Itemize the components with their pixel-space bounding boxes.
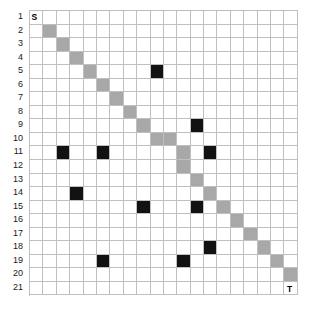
grid-cell-empty[interactable] xyxy=(231,38,244,52)
grid-cell-blocked[interactable] xyxy=(137,201,150,215)
grid-cell-empty[interactable] xyxy=(231,106,244,120)
grid-cell-empty[interactable] xyxy=(84,282,97,296)
grid-cell-empty[interactable] xyxy=(97,38,110,52)
grid-cell-empty[interactable] xyxy=(30,38,43,52)
grid-cell-empty[interactable] xyxy=(151,214,164,228)
grid-cell-empty[interactable] xyxy=(191,187,204,201)
grid-cell-empty[interactable] xyxy=(97,187,110,201)
grid-cell-empty[interactable] xyxy=(164,174,177,188)
grid-cell-empty[interactable] xyxy=(164,268,177,282)
grid-cell-empty[interactable] xyxy=(57,133,70,147)
grid-cell-empty[interactable] xyxy=(124,282,137,296)
grid-cell-empty[interactable] xyxy=(43,187,56,201)
grid-cell-blocked[interactable] xyxy=(177,255,190,269)
grid-cell-empty[interactable] xyxy=(164,25,177,39)
grid-cell-empty[interactable] xyxy=(30,133,43,147)
grid-cell-empty[interactable] xyxy=(30,65,43,79)
grid-cell-empty[interactable] xyxy=(151,201,164,215)
grid-cell-empty[interactable] xyxy=(30,79,43,93)
grid-cell-empty[interactable] xyxy=(258,160,271,174)
grid-cell-empty[interactable] xyxy=(177,133,190,147)
grid-cell-empty[interactable] xyxy=(271,133,284,147)
grid-cell-empty[interactable] xyxy=(271,11,284,25)
grid-cell-empty[interactable] xyxy=(137,11,150,25)
grid-cell-path[interactable] xyxy=(164,133,177,147)
grid-cell-empty[interactable] xyxy=(137,282,150,296)
grid-cell-empty[interactable] xyxy=(70,160,83,174)
grid-cell-empty[interactable] xyxy=(30,268,43,282)
grid-cell-empty[interactable] xyxy=(231,241,244,255)
grid-cell-empty[interactable] xyxy=(84,146,97,160)
grid-cell-empty[interactable] xyxy=(84,201,97,215)
grid-cell-empty[interactable] xyxy=(191,241,204,255)
grid-cell-empty[interactable] xyxy=(244,133,257,147)
grid-cell-blocked[interactable] xyxy=(57,146,70,160)
grid-cell-empty[interactable] xyxy=(137,255,150,269)
grid-cell-empty[interactable] xyxy=(151,38,164,52)
grid-cell-empty[interactable] xyxy=(97,228,110,242)
grid-cell-path[interactable] xyxy=(110,92,123,106)
grid-cell-empty[interactable] xyxy=(271,174,284,188)
grid-cell-empty[interactable] xyxy=(231,119,244,133)
grid-cell-empty[interactable] xyxy=(204,282,217,296)
grid-cell-empty[interactable] xyxy=(271,268,284,282)
grid-cell-blocked[interactable] xyxy=(70,187,83,201)
grid-cell-empty[interactable] xyxy=(217,268,230,282)
grid-cell-empty[interactable] xyxy=(244,174,257,188)
grid-cell-empty[interactable] xyxy=(217,146,230,160)
grid-cell-path[interactable] xyxy=(43,25,56,39)
grid-cell-empty[interactable] xyxy=(258,255,271,269)
grid-cell-empty[interactable] xyxy=(284,38,297,52)
grid-cell-blocked[interactable] xyxy=(151,65,164,79)
grid-cell-empty[interactable] xyxy=(84,187,97,201)
grid-cell-empty[interactable] xyxy=(258,214,271,228)
grid-cell-empty[interactable] xyxy=(217,214,230,228)
grid-cell-empty[interactable] xyxy=(284,119,297,133)
grid-cell-empty[interactable] xyxy=(57,214,70,228)
grid-cell-empty[interactable] xyxy=(191,25,204,39)
grid-cell-empty[interactable] xyxy=(191,52,204,66)
grid-cell-empty[interactable] xyxy=(124,241,137,255)
grid-cell-empty[interactable] xyxy=(43,201,56,215)
grid-cell-empty[interactable] xyxy=(258,268,271,282)
grid-cell-empty[interactable] xyxy=(244,146,257,160)
grid-cell-empty[interactable] xyxy=(271,187,284,201)
grid-cell-empty[interactable] xyxy=(110,255,123,269)
grid-cell-empty[interactable] xyxy=(124,25,137,39)
grid-cell-empty[interactable] xyxy=(30,241,43,255)
grid-cell-empty[interactable] xyxy=(57,255,70,269)
grid-cell-empty[interactable] xyxy=(271,38,284,52)
grid-cell-empty[interactable] xyxy=(244,25,257,39)
grid-cell-empty[interactable] xyxy=(191,11,204,25)
grid-cell-empty[interactable] xyxy=(70,25,83,39)
grid-cell-empty[interactable] xyxy=(244,241,257,255)
grid-cell-empty[interactable] xyxy=(30,25,43,39)
grid-cell-empty[interactable] xyxy=(110,160,123,174)
grid-cell-empty[interactable] xyxy=(151,79,164,93)
grid-cell-empty[interactable] xyxy=(124,255,137,269)
grid-cell-empty[interactable] xyxy=(97,201,110,215)
grid-cell-empty[interactable] xyxy=(284,79,297,93)
grid-cell-empty[interactable] xyxy=(177,38,190,52)
grid-cell-empty[interactable] xyxy=(271,146,284,160)
grid-cell-empty[interactable] xyxy=(204,214,217,228)
grid-cell-empty[interactable] xyxy=(217,65,230,79)
grid-cell-empty[interactable] xyxy=(177,228,190,242)
grid-cell-empty[interactable] xyxy=(70,146,83,160)
grid-cell-empty[interactable] xyxy=(217,25,230,39)
grid-cell-empty[interactable] xyxy=(70,241,83,255)
grid-cell-empty[interactable] xyxy=(177,201,190,215)
grid-cell-empty[interactable] xyxy=(124,79,137,93)
grid-cell-empty[interactable] xyxy=(30,187,43,201)
grid-cell-empty[interactable] xyxy=(124,160,137,174)
grid-cell-empty[interactable] xyxy=(258,65,271,79)
grid-cell-empty[interactable] xyxy=(244,255,257,269)
grid-cell-empty[interactable] xyxy=(177,241,190,255)
grid-cell-empty[interactable] xyxy=(137,106,150,120)
grid-cell-blocked[interactable] xyxy=(97,146,110,160)
grid-cell-empty[interactable] xyxy=(84,160,97,174)
grid-cell-empty[interactable] xyxy=(217,228,230,242)
grid-cell-empty[interactable] xyxy=(258,228,271,242)
grid-cell-empty[interactable] xyxy=(57,119,70,133)
grid-cell-empty[interactable] xyxy=(137,187,150,201)
